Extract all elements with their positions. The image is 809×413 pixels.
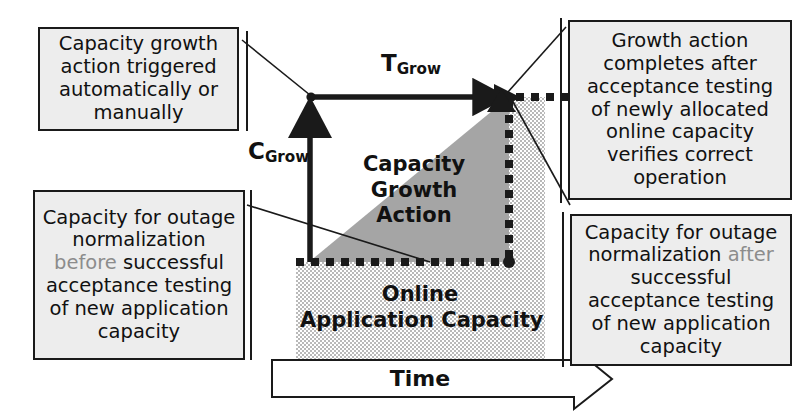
tickbar-top-left xyxy=(246,31,248,131)
emphasis-word: before xyxy=(54,251,117,274)
callout-capacity-growth-trigger: Capacity growthaction triggeredautomatic… xyxy=(38,27,239,131)
tickbar-bottom-left xyxy=(250,190,252,360)
label-t-grow-base: T xyxy=(381,50,397,76)
tickbar-top-right xyxy=(560,18,562,203)
label-c-grow-base: C xyxy=(248,138,265,164)
connector-top-left xyxy=(242,40,310,95)
label-c-grow: CGrow xyxy=(248,138,318,164)
label-t-grow: TGrow xyxy=(356,50,466,76)
tickbar-bottom-right xyxy=(562,212,564,367)
label-capacity-growth-action: CapacityGrowthAction xyxy=(338,152,490,229)
label-online-application-capacity: OnlineApplication Capacity xyxy=(300,282,540,333)
callout-outage-normalization-after: Capacity for outage normalization after … xyxy=(570,214,792,366)
callout-top-left-text: Capacity growthaction triggeredautomatic… xyxy=(46,33,231,124)
callout-outage-normalization-before: Capacity for outage normalization before… xyxy=(33,190,245,360)
label-time-axis: Time xyxy=(330,366,510,391)
emphasis-word: after xyxy=(728,243,774,266)
callout-top-right-text: Growth actioncompletes afteracceptance t… xyxy=(576,30,784,190)
label-oac-text: OnlineApplication Capacity xyxy=(300,282,543,332)
label-t-grow-sub: Grow xyxy=(397,60,441,78)
label-cga-text: CapacityGrowthAction xyxy=(363,152,465,227)
callout-bottom-left-text: Capacity for outage normalization before… xyxy=(41,207,237,344)
callout-bottom-right-text: Capacity for outage normalization after … xyxy=(578,222,784,359)
callout-growth-action-completion: Growth actioncompletes afteracceptance t… xyxy=(568,20,792,200)
diagram-canvas: Capacity growthaction triggeredautomatic… xyxy=(0,0,809,413)
label-c-grow-sub: Grow xyxy=(265,148,309,166)
connector-top-right xyxy=(508,27,566,92)
